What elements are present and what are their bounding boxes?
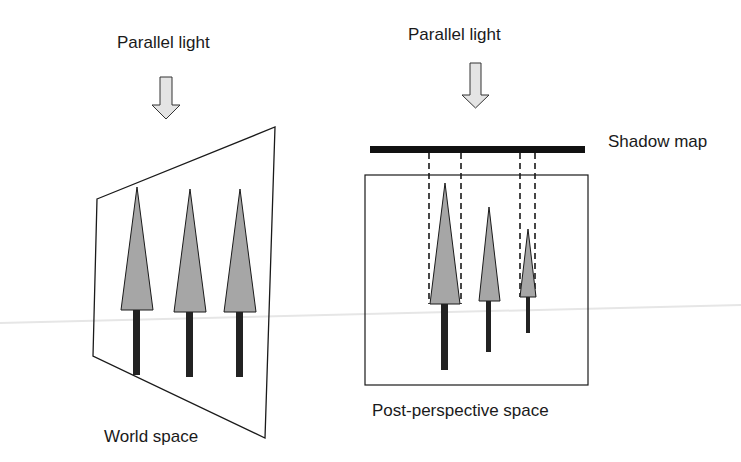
tree	[174, 189, 206, 377]
tree-trunk	[441, 304, 448, 370]
tree-crown	[479, 207, 500, 301]
tree-crown	[121, 187, 153, 310]
down-arrow-icon	[152, 77, 180, 119]
world-space-panel: Parallel light World space	[93, 33, 275, 446]
tree-crown	[520, 229, 536, 297]
parallel-light-label-right: Parallel light	[408, 25, 501, 44]
tree-trunk	[186, 312, 193, 377]
scan-artifact-line	[0, 305, 741, 323]
parallel-light-label-left: Parallel light	[117, 33, 210, 52]
world-space-label: World space	[104, 427, 198, 446]
tree-crown	[174, 189, 206, 312]
post-perspective-space-label: Post-perspective space	[372, 401, 549, 420]
tree-trunk	[526, 297, 530, 333]
tree	[224, 189, 256, 377]
tree	[479, 207, 500, 352]
shadow-map-label: Shadow map	[608, 132, 707, 151]
post-perspective-box	[365, 175, 588, 385]
tree-trunk	[486, 301, 491, 352]
down-arrow-icon	[462, 63, 489, 108]
post-perspective-panel: Parallel light Shadow map Post-perspecti…	[365, 25, 707, 420]
tree-trunk	[236, 312, 243, 377]
tree-crown	[224, 189, 256, 312]
tree	[121, 187, 153, 375]
tree-trunk	[133, 310, 140, 375]
tree	[520, 229, 536, 333]
tree	[430, 183, 460, 370]
tree-crown	[430, 183, 460, 304]
shadow-map-diagram: Parallel light World space Parallel ligh…	[0, 0, 741, 462]
shadow-map-bar	[370, 146, 585, 153]
